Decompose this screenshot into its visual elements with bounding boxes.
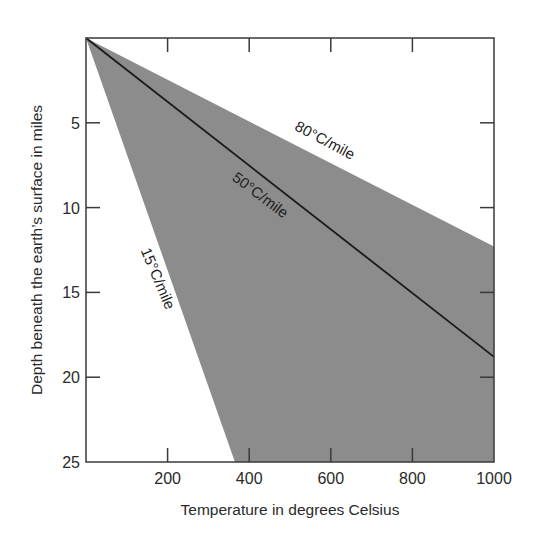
x-tick-label: 800 (399, 470, 426, 487)
x-tick-label: 1000 (476, 470, 512, 487)
y-tick-label: 10 (62, 200, 80, 217)
x-tick-label: 400 (236, 470, 263, 487)
y-axis-title: Depth beneath the earth’s surface in mil… (28, 105, 45, 395)
y-tick-label: 5 (71, 115, 80, 132)
y-tick-label: 20 (62, 369, 80, 386)
y-tick-label: 25 (62, 454, 80, 471)
x-tick-label: 200 (154, 470, 181, 487)
x-axis-title: Temperature in degrees Celsius (181, 501, 400, 518)
y-tick-label: 15 (62, 284, 80, 301)
x-tick-label: 600 (317, 470, 344, 487)
geothermal-gradient-chart: 2004006008001000510152025 80°C/mile50°C/… (0, 0, 540, 543)
